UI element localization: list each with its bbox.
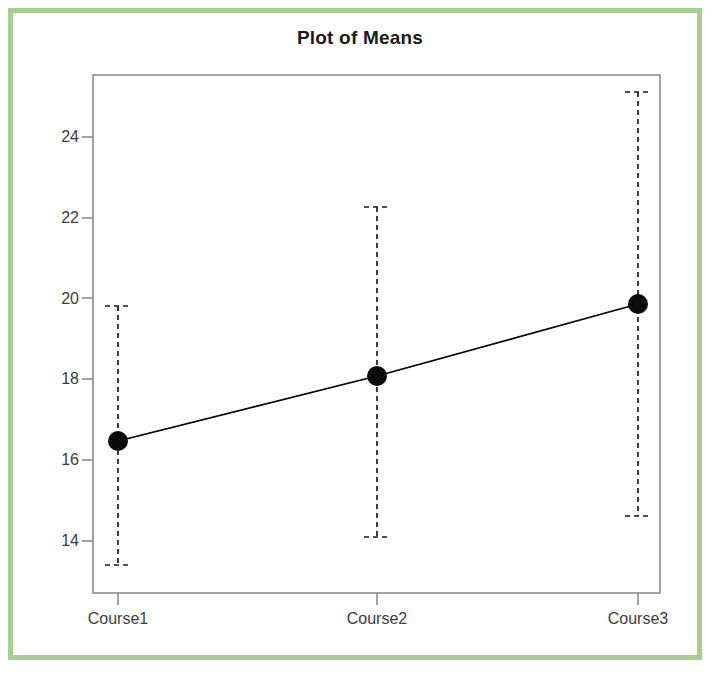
data-point-course1: [108, 431, 128, 451]
figure-border: Plot of Means 24 22 20 18 16 14 Course1 …: [8, 8, 702, 660]
data-point-course2: [367, 366, 387, 386]
y-axis-ticks: [82, 137, 93, 541]
x-axis-ticks: [118, 593, 638, 605]
data-point-course3: [628, 294, 648, 314]
plot-of-means-chart: [13, 13, 707, 665]
